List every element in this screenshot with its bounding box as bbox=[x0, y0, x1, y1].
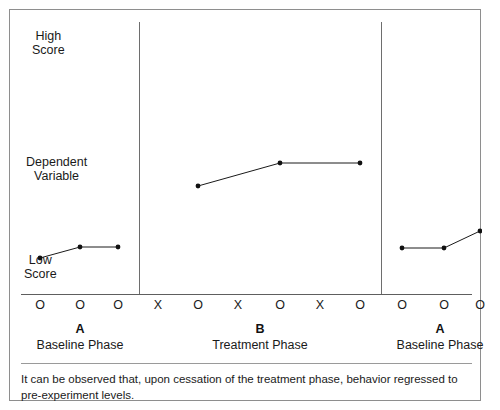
data-point-marker bbox=[78, 245, 83, 250]
x-tick-label-5: O bbox=[188, 298, 208, 312]
phase-letter: B bbox=[180, 322, 340, 337]
phase-label-row: ABaseline PhaseBTreatment PhaseABaseline… bbox=[10, 322, 482, 362]
phase-name: Baseline Phase bbox=[360, 337, 500, 353]
data-point-marker bbox=[478, 229, 482, 234]
x-tick-label-9: O bbox=[350, 298, 370, 312]
data-series-overlay bbox=[10, 10, 482, 295]
figure-frame: High Score Dependent Variable Low Score … bbox=[9, 9, 481, 401]
data-point-marker bbox=[196, 184, 201, 189]
phase-name: Treatment Phase bbox=[180, 337, 340, 353]
series-group-2 bbox=[196, 161, 363, 189]
phase-name: Baseline Phase bbox=[0, 337, 160, 353]
axis-label-high-score: High Score bbox=[32, 29, 65, 57]
x-tick-label-3: O bbox=[108, 298, 128, 312]
phase-letter: A bbox=[0, 322, 160, 337]
phase-block-2: BTreatment Phase bbox=[180, 322, 340, 353]
data-point-marker bbox=[278, 161, 283, 166]
series-line bbox=[198, 163, 360, 186]
data-point-marker bbox=[358, 161, 363, 166]
series-group-3 bbox=[400, 229, 482, 251]
note-divider bbox=[21, 363, 472, 364]
x-tick-label-1: O bbox=[30, 298, 50, 312]
phase-block-1: ABaseline Phase bbox=[0, 322, 160, 353]
data-point-marker bbox=[116, 245, 121, 250]
phase-letter: A bbox=[360, 322, 500, 337]
axis-label-low-score: Low Score bbox=[24, 253, 57, 281]
x-axis-line bbox=[21, 294, 472, 295]
x-tick-label-12: O bbox=[470, 298, 490, 312]
x-tick-label-2: O bbox=[70, 298, 90, 312]
phase-divider-2 bbox=[381, 22, 382, 294]
chart-plot-area: High Score Dependent Variable Low Score bbox=[10, 10, 482, 295]
axis-label-dependent-variable: Dependent Variable bbox=[26, 155, 87, 183]
x-axis-tick-row: OOOXOXOXOOOO bbox=[10, 298, 482, 318]
data-point-marker bbox=[400, 246, 405, 251]
x-tick-label-10: O bbox=[392, 298, 412, 312]
series-line bbox=[402, 231, 480, 248]
x-tick-label-11: O bbox=[434, 298, 454, 312]
phase-divider-1 bbox=[139, 22, 140, 294]
x-tick-label-7: O bbox=[270, 298, 290, 312]
figure-note: It can be observed that, upon cessation … bbox=[21, 372, 461, 403]
data-point-marker bbox=[442, 246, 447, 251]
phase-block-3: ABaseline Phase bbox=[360, 322, 500, 353]
x-tick-label-6: X bbox=[228, 298, 248, 312]
x-tick-label-4: X bbox=[148, 298, 168, 312]
x-tick-label-8: X bbox=[310, 298, 330, 312]
